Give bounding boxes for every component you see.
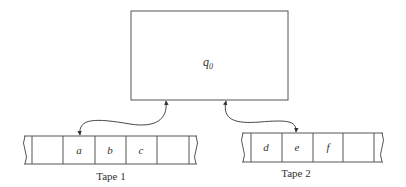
tape-2: d e f Tape 2 — [242, 133, 384, 179]
tape-1-cell: a — [76, 144, 82, 156]
tape-1-cell: c — [139, 144, 144, 156]
tape-2-cell: f — [326, 141, 331, 153]
tape-2-cell: d — [263, 141, 269, 153]
tape-2-right-break-icon — [381, 133, 384, 162]
tape-1-left-break-icon — [24, 136, 27, 164]
turing-machine-diagram: q0 a b c Tape 1 d e f Tape 2 — [0, 0, 406, 187]
tape-1-head-arrow-icon — [80, 101, 166, 135]
tape-1-cell: b — [107, 144, 113, 156]
tape-2-left-break-icon — [242, 133, 245, 162]
tape-1: a b c Tape 1 — [24, 136, 198, 182]
control-unit: q0 — [131, 11, 288, 100]
tape-1-label: Tape 1 — [96, 170, 125, 182]
tape-1-right-break-icon — [195, 136, 198, 164]
tape-2-cell: e — [295, 141, 300, 153]
tape-2-label: Tape 2 — [281, 167, 310, 179]
tape-2-head-arrow-icon — [225, 101, 296, 132]
state-label: q0 — [203, 55, 213, 71]
